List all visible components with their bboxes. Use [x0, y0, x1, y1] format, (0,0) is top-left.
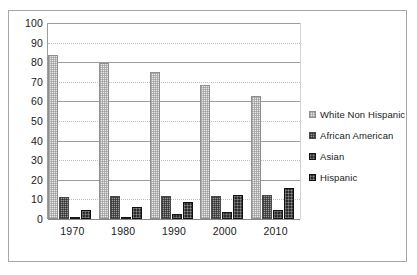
- x-tick-label-1980: 1980: [111, 225, 135, 237]
- bar: [161, 196, 171, 219]
- bar: [150, 72, 160, 219]
- bar: [172, 214, 182, 219]
- bar: [211, 196, 221, 219]
- legend-item-label: White Non Hispanic: [320, 109, 405, 120]
- chart-frame: 1009080706050403020100 19701980199020002…: [8, 10, 407, 262]
- legend-item[interactable]: Hispanic: [309, 169, 405, 186]
- y-tick-label-90: 90: [31, 37, 43, 49]
- legend-swatch-icon: [309, 111, 316, 118]
- bar: [183, 202, 193, 219]
- y-tick-label-20: 20: [31, 174, 43, 186]
- bar: [70, 217, 80, 219]
- x-axis: 19701980199020002010: [47, 221, 301, 243]
- y-tick-label-0: 0: [37, 213, 43, 225]
- legend-item-label: Asian: [320, 151, 344, 162]
- y-tick-label-70: 70: [31, 76, 43, 88]
- bar: [284, 188, 294, 219]
- y-tick-label-10: 10: [31, 193, 43, 205]
- y-tick-label-50: 50: [31, 115, 43, 127]
- bar: [132, 207, 142, 219]
- chart-screenshot: 1009080706050403020100 19701980199020002…: [0, 0, 417, 275]
- bar: [273, 210, 283, 219]
- y-tick-label-80: 80: [31, 56, 43, 68]
- bar: [251, 96, 261, 219]
- bar: [110, 196, 120, 219]
- bar: [262, 195, 272, 219]
- bar: [233, 195, 243, 219]
- bar: [200, 85, 210, 219]
- legend-item-label: African American: [320, 130, 393, 141]
- y-axis: 1009080706050403020100: [9, 23, 43, 219]
- bars-layer: [48, 23, 300, 219]
- y-tick-label-60: 60: [31, 95, 43, 107]
- plot-area: [47, 23, 301, 219]
- legend-swatch-icon: [309, 174, 316, 181]
- y-tick-label-30: 30: [31, 154, 43, 166]
- x-tick-label-2010: 2010: [264, 225, 288, 237]
- x-tick-label-1970: 1970: [60, 225, 84, 237]
- chart-legend: White Non HispanicAfrican AmericanAsianH…: [309, 106, 405, 190]
- legend-item[interactable]: African American: [309, 127, 405, 144]
- legend-swatch-icon: [309, 153, 316, 160]
- bar: [81, 210, 91, 219]
- legend-swatch-icon: [309, 132, 316, 139]
- bar: [48, 55, 58, 219]
- legend-item-label: Hispanic: [320, 172, 357, 183]
- bar: [222, 212, 232, 219]
- gridline-0: [48, 219, 300, 220]
- y-tick-label-40: 40: [31, 135, 43, 147]
- x-tick-label-2000: 2000: [213, 225, 237, 237]
- legend-item[interactable]: Asian: [309, 148, 405, 165]
- x-tick-label-1990: 1990: [162, 225, 186, 237]
- bar: [59, 197, 69, 219]
- legend-item[interactable]: White Non Hispanic: [309, 106, 405, 123]
- bar: [121, 217, 131, 219]
- y-tick-label-100: 100: [25, 17, 43, 29]
- bar: [99, 63, 109, 219]
